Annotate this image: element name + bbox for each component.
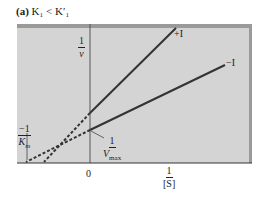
- km-label: −1Km: [18, 124, 31, 150]
- x-axis-label: 1[S]: [163, 166, 175, 189]
- minus-i-label: −I: [226, 58, 235, 68]
- plus-i-label: +I: [174, 29, 183, 39]
- panel-right-border: [249, 24, 252, 163]
- vmax-label: 1Vmax: [103, 136, 121, 162]
- origin-label: 0: [86, 169, 91, 179]
- y-axis-label: 1v: [78, 36, 85, 59]
- plot-panel: [17, 24, 252, 163]
- panel-top-border: [17, 24, 252, 28]
- lineweaver-burk-plot: [0, 0, 268, 202]
